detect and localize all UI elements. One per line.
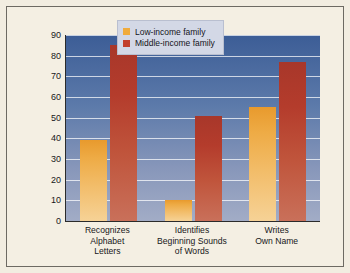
x-axis-label-line: Recognizes (65, 225, 150, 236)
legend-swatch-icon (123, 28, 130, 35)
bar-low-income[interactable] (165, 200, 192, 221)
bar-low-income[interactable] (249, 107, 276, 221)
legend-item[interactable]: Middle-income family (123, 38, 215, 48)
x-axis-label-line: Own Name (234, 236, 319, 247)
y-axis-tick-label: 0 (31, 216, 61, 226)
legend-swatch-icon (123, 40, 130, 47)
bar-group (80, 35, 137, 221)
x-axis-label-line: Letters (65, 246, 150, 257)
y-axis-tick-label: 50 (31, 113, 61, 123)
y-axis-tick-label: 60 (31, 92, 61, 102)
y-axis-tick-label: 40 (31, 133, 61, 143)
x-axis-label-line: Writes (234, 225, 319, 236)
bar-low-income[interactable] (80, 140, 107, 221)
y-axis-tick-label: 90 (31, 30, 61, 40)
x-axis-label-line: Beginning Sounds (150, 236, 235, 247)
legend-item[interactable]: Low-income family (123, 27, 215, 37)
y-axis-tick-label: 20 (31, 175, 61, 185)
chart-frame: Percentage of Kindergartners 01020304050… (6, 6, 344, 267)
y-axis-ticks: 0102030405060708090 (31, 35, 61, 222)
plot-area (65, 35, 320, 222)
x-axis-label-line: Identifies (150, 225, 235, 236)
x-axis-label-line: Alphabet (65, 236, 150, 247)
bar-middle-income[interactable] (110, 45, 137, 221)
y-axis-tick-label: 10 (31, 195, 61, 205)
bar-middle-income[interactable] (279, 62, 306, 221)
y-axis-tick-label: 30 (31, 154, 61, 164)
x-axis-category-label: IdentifiesBeginning Soundsof Words (150, 225, 235, 257)
y-axis-tick-label: 70 (31, 71, 61, 81)
chart-legend: Low-income familyMiddle-income family (117, 20, 224, 55)
bar-group (165, 35, 222, 221)
y-axis-tick-label: 80 (31, 51, 61, 61)
legend-label: Middle-income family (135, 38, 215, 48)
legend-label: Low-income family (135, 27, 205, 37)
x-axis-labels: RecognizesAlphabetLettersIdentifiesBegin… (65, 225, 320, 269)
x-axis-label-line: of Words (150, 246, 235, 257)
x-axis-category-label: WritesOwn Name (234, 225, 319, 246)
bar-middle-income[interactable] (195, 116, 222, 221)
chart-figure: Percentage of Kindergartners 01020304050… (0, 0, 350, 273)
bar-group (249, 35, 306, 221)
x-axis-category-label: RecognizesAlphabetLetters (65, 225, 150, 257)
